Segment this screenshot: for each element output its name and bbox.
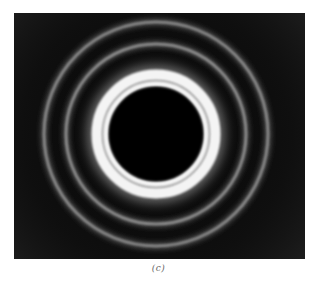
ring-pattern <box>14 13 305 259</box>
center-disc <box>109 87 203 181</box>
figure-caption: (c) <box>0 263 317 273</box>
diffraction-pattern-photo <box>14 13 305 259</box>
